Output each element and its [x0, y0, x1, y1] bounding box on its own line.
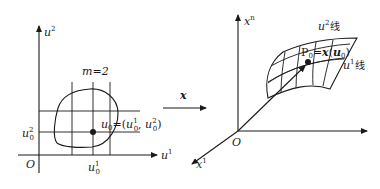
mapping-arrow-group: x	[163, 89, 206, 108]
parametric-surface-diagram: u2 u1 O m=2 u0=(u10, u20) u20 u10 x xn x…	[0, 0, 380, 189]
origin-label-right: O	[232, 136, 241, 149]
origin-label-left: O	[26, 158, 35, 171]
tick-label-u1-0: u10	[88, 160, 100, 176]
position-vector	[238, 66, 305, 131]
u2-line-label: u2线	[318, 19, 340, 33]
tick-label-u2-0: u20	[22, 126, 34, 142]
domain-region-curve	[54, 89, 118, 147]
mapping-label: x	[179, 89, 187, 102]
u2-axis-label: u2	[44, 25, 56, 39]
embedding-space-panel: xn x1 O P0=x(u0) u2线 u1线	[192, 14, 367, 171]
u1-line-label: u1线	[343, 58, 365, 72]
x1-axis-label: x1	[196, 157, 207, 171]
point-p0-label: P0=x(u0)	[301, 46, 350, 60]
parameter-domain-panel: u2 u1 O m=2 u0=(u10, u20) u20 u10	[18, 25, 173, 176]
point-u0	[90, 129, 96, 135]
dimension-label: m=2	[82, 65, 109, 78]
u1-axis-label: u1	[161, 148, 173, 162]
xn-axis-label: xn	[244, 14, 255, 28]
